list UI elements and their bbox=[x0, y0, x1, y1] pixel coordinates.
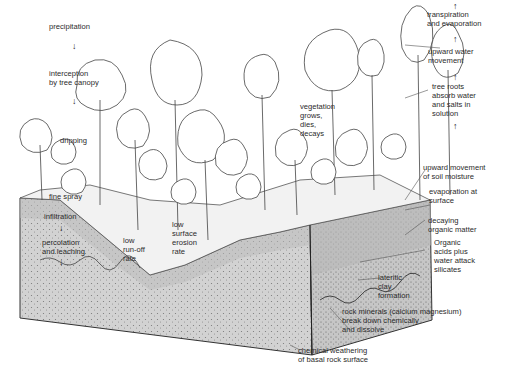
down-arrow-icon: ↓ bbox=[59, 258, 64, 267]
up-arrow-icon: ↑ bbox=[453, 73, 458, 82]
label-vegetation: vegetation grows, dies, decays bbox=[300, 102, 335, 138]
label-upward-water: upward water movement bbox=[428, 47, 474, 65]
label-fine-spray: fine spray bbox=[49, 192, 82, 201]
label-interception: interception by tree canopy bbox=[49, 69, 99, 87]
label-percolation: percolation and leaching bbox=[42, 238, 85, 256]
label-precipitation: precipitation bbox=[49, 22, 90, 31]
label-organic-acids: Organic acids plus water attack silicate… bbox=[434, 238, 475, 274]
label-soil-moisture: upward movement of soil moisture bbox=[423, 163, 485, 181]
down-arrow-icon: ↓ bbox=[72, 42, 77, 51]
up-arrow-icon: ↑ bbox=[453, 35, 458, 44]
down-arrow-icon: ↓ bbox=[72, 97, 77, 106]
label-dripping: dripping bbox=[60, 136, 87, 145]
rainforest-diagram: precipitation ↓ interception by tree can… bbox=[0, 0, 507, 377]
label-lateritic: lateritic clay formation bbox=[378, 273, 410, 300]
label-infiltration: infiltration bbox=[44, 212, 77, 221]
label-chemical-weathering: chemical weathering of basal rock surfac… bbox=[298, 346, 368, 364]
label-transpiration: transpiration and evaporation bbox=[427, 10, 481, 28]
label-evaporation-surface: evaporation at surface bbox=[429, 187, 477, 205]
down-arrow-icon: ↓ bbox=[59, 224, 64, 233]
up-arrow-icon: ↑ bbox=[453, 122, 458, 131]
label-low-runoff: low run-off rate bbox=[123, 236, 145, 263]
label-decaying: decaying organic matter bbox=[428, 216, 477, 234]
label-rock-minerals: rock minerals (calcium magnesium) break … bbox=[342, 307, 461, 334]
label-low-erosion: low surface erosion rate bbox=[172, 220, 197, 256]
label-tree-roots: tree roots absorb water and salts in sol… bbox=[432, 82, 476, 118]
